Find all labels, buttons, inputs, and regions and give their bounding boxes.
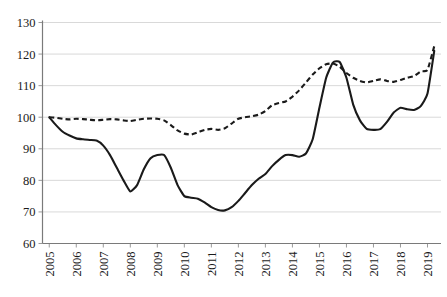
x-axis-labels-group: 2005200620072008200920102011201220132014… — [43, 251, 435, 277]
x-tickmarks-group — [49, 244, 427, 248]
y-axis-tick-label: 80 — [23, 174, 36, 188]
chart-canvas: 60708090100110120130 2005200620072008200… — [0, 0, 447, 297]
x-axis-tick-label: 2016 — [340, 252, 354, 277]
x-axis-tick-label: 2006 — [70, 252, 84, 277]
x-axis-tick-label: 2009 — [151, 252, 165, 277]
series-line-dashed — [49, 46, 434, 134]
x-axis-tick-label: 2008 — [124, 252, 138, 277]
x-axis-tick-label: 2012 — [232, 251, 246, 276]
x-axis-tick-label: 2017 — [367, 252, 381, 277]
gridlines-group — [43, 23, 442, 212]
x-axis-tick-label: 2018 — [394, 252, 408, 277]
x-axis-tick-label: 2015 — [313, 252, 327, 277]
y-axis-tick-label: 100 — [17, 111, 36, 125]
y-axis-tick-label: 110 — [17, 79, 35, 93]
x-axis-tick-label: 2019 — [421, 252, 435, 277]
x-axis-tick-label: 2011 — [205, 252, 219, 277]
x-axis-tick-label: 2005 — [43, 252, 57, 277]
y-axis-tick-label: 70 — [23, 205, 36, 219]
x-axis-tick-label: 2007 — [97, 252, 111, 277]
y-axis-labels-group: 60708090100110120130 — [17, 16, 36, 251]
y-axis-tick-label: 130 — [17, 16, 36, 30]
line-chart: 60708090100110120130 2005200620072008200… — [0, 0, 447, 297]
series-line-solid — [49, 51, 434, 211]
x-axis-tick-label: 2010 — [178, 252, 192, 277]
y-axis-tick-label: 120 — [17, 48, 36, 62]
x-axis-tick-label: 2014 — [286, 251, 300, 277]
x-axis-tick-label: 2013 — [259, 252, 273, 277]
y-axis-tick-label: 60 — [23, 237, 36, 251]
y-axis-tick-label: 90 — [23, 142, 36, 156]
